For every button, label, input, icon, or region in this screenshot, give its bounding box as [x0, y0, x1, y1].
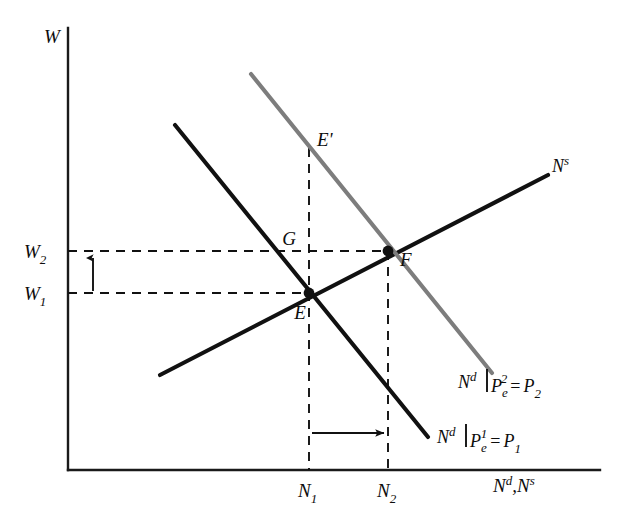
curve-label-labour-demand-p1: Nd Pe1=P1 — [436, 424, 521, 456]
point-label-F: F — [399, 249, 412, 270]
y-tick-label-w2: W2 — [24, 241, 47, 267]
y-tick-label-w1: W1 — [24, 283, 46, 309]
curve-label-labour-supply: Ns — [551, 153, 569, 176]
point-label-E: E — [293, 302, 306, 323]
demand1-rhs-base: P — [502, 431, 514, 451]
x-tick-labels-group: N1 N2 — [297, 480, 397, 506]
svg-text:Pe2=P2: Pe2=P2 — [490, 371, 541, 401]
y-tick-labels-group: W2 W1 — [24, 241, 47, 309]
x-axis-label-ns-sup: s — [530, 473, 535, 488]
demand2-p-sup: 2 — [501, 371, 508, 386]
demand1-p-sup: 1 — [481, 426, 488, 441]
svg-text:Pe1=P1: Pe1=P1 — [469, 426, 521, 456]
demand2-n-base: N — [457, 372, 471, 392]
curve-label-labour-demand-p2: Nd Pe2=P2 — [457, 369, 541, 401]
point-label-G: G — [282, 228, 296, 249]
demand2-rhs-sub: 2 — [534, 386, 541, 401]
x-tick-label-n2: N2 — [376, 480, 397, 506]
curves-group — [160, 74, 548, 437]
x-axis-label: Nd,Ns — [492, 473, 535, 496]
point-labels-group: E F G E' — [282, 129, 412, 323]
demand2-rhs-base: P — [522, 376, 534, 396]
labour-market-equilibrium-diagram: W Nd,Ns W2 W1 N1 N2 E F — [0, 0, 620, 524]
y-tick-w2-sub: 2 — [40, 252, 47, 267]
svg-text:Nd: Nd — [457, 369, 477, 392]
curve-label-ns-base: N — [551, 156, 565, 176]
equilibrium-points-group — [304, 246, 394, 299]
demand2-equals: = — [510, 376, 520, 396]
demand2-n-sup: d — [470, 369, 477, 384]
demand1-rhs-sub: 1 — [514, 441, 521, 456]
x-tick-label-n1: N1 — [297, 480, 317, 506]
demand1-n-sup: d — [449, 424, 456, 439]
svg-text:Nd: Nd — [436, 424, 456, 447]
demand1-p-sub: e — [481, 440, 487, 455]
demand1-equals: = — [490, 431, 500, 451]
point-label-E-prime: E' — [316, 129, 334, 150]
labour-demand-curve-p1 — [175, 125, 428, 437]
demand1-n-base: N — [436, 427, 450, 447]
y-axis-label: W — [44, 26, 62, 47]
demand1-p-base: P — [469, 431, 481, 451]
point-E-dot — [304, 288, 315, 299]
curve-label-ns-sup: s — [564, 153, 569, 168]
guide-lines-group — [68, 148, 388, 470]
diagram-root: W Nd,Ns W2 W1 N1 N2 E F — [0, 0, 620, 524]
x-tick-n1-sub: 1 — [311, 491, 318, 506]
point-F-dot — [383, 246, 394, 257]
axes-group — [68, 28, 600, 470]
x-tick-n2-sub: 2 — [390, 491, 397, 506]
svg-text:Nd,Ns: Nd,Ns — [492, 473, 535, 496]
demand2-p-sub: e — [502, 385, 508, 400]
y-tick-w1-sub: 1 — [40, 294, 47, 309]
